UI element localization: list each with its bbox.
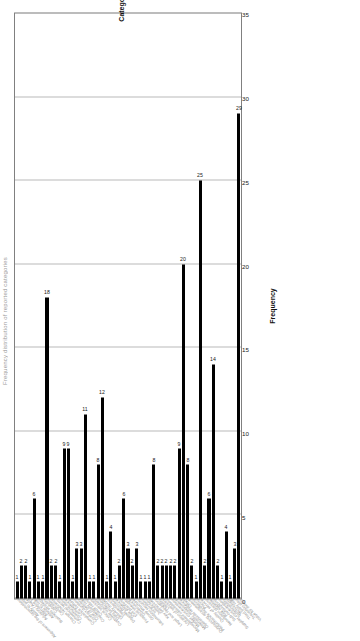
bar xyxy=(122,498,125,598)
bar-value-label: 2 xyxy=(54,559,57,564)
frequency-axis-title: Frequency xyxy=(269,12,276,599)
bar xyxy=(173,565,176,598)
frequency-axis-ticks: 05101520253035 xyxy=(242,12,260,599)
plot-area: 1221611182219913311118121412632311182222… xyxy=(14,12,242,599)
category-tick-label: Key personnel xyxy=(148,601,167,620)
bar xyxy=(16,581,19,598)
bar xyxy=(139,581,142,598)
bar-value-label: 3 xyxy=(127,542,130,547)
bar-value-label: 2 xyxy=(118,559,121,564)
category-tick-label: Technology xyxy=(225,601,240,616)
bar-value-label: 1 xyxy=(16,575,19,580)
category-tick-label: Management information xyxy=(165,601,197,633)
category-tick-label: Critical services xyxy=(89,601,109,621)
bar xyxy=(178,448,181,598)
bar xyxy=(135,548,138,598)
bar xyxy=(152,464,155,598)
bar-value-label: 2 xyxy=(50,559,53,564)
frequency-tick-label: 35 xyxy=(242,10,249,17)
bar-value-label: 14 xyxy=(210,357,216,362)
category-tick-label: Business strategy xyxy=(37,601,60,624)
bar-value-label: 8 xyxy=(186,458,189,463)
bar xyxy=(182,264,185,598)
bar xyxy=(233,548,236,598)
bar-value-label: 1 xyxy=(58,575,61,580)
category-tick-label: Outsourcing arrangement xyxy=(187,601,220,634)
bar-value-label: 20 xyxy=(181,256,187,261)
bar xyxy=(195,581,198,598)
bar xyxy=(92,581,95,598)
category-tick-label: Attitude to risk xyxy=(33,601,51,619)
bar-value-label: 1 xyxy=(229,575,232,580)
bar-value-label: 2 xyxy=(20,559,23,564)
bar xyxy=(186,464,189,598)
frequency-tick-label: 15 xyxy=(242,345,249,352)
category-tick-label: Customer outcomes xyxy=(93,601,119,627)
bar-value-label: 2 xyxy=(191,559,194,564)
bar-value-label: 2 xyxy=(169,559,172,564)
bar-value-label: 2 xyxy=(131,559,134,564)
category-tick-label: Value for money xyxy=(238,601,259,622)
gridline xyxy=(15,179,241,180)
category-tick-label: Competence xyxy=(63,601,79,617)
bar-value-label: 3 xyxy=(233,542,236,547)
bar xyxy=(97,464,100,598)
bar xyxy=(63,448,66,598)
bar-value-label: 8 xyxy=(97,458,100,463)
rotated-figure: Frequency distribution of reported categ… xyxy=(0,0,360,641)
bar-value-label: 1 xyxy=(195,575,198,580)
bar-value-label: 9 xyxy=(63,442,66,447)
category-axis-title-wrap: Category xyxy=(0,0,242,12)
category-tick-label: Disaster recovery xyxy=(110,601,133,624)
category-tick-label: Credit rating xyxy=(84,601,100,617)
category-tick-label: Sustainability xyxy=(221,601,238,618)
bar-value-label: 9 xyxy=(67,442,70,447)
bar-value-label: 25 xyxy=(198,173,204,178)
bar xyxy=(71,581,74,598)
bar xyxy=(144,581,147,598)
frequency-tick-label: 25 xyxy=(242,178,249,185)
bar-value-label: 18 xyxy=(44,290,50,295)
bar xyxy=(161,565,164,598)
category-tick-label: Legal and regulatory xyxy=(153,601,179,627)
bar xyxy=(101,397,104,598)
bar-value-label: 6 xyxy=(208,492,211,497)
frequency-tick-label: 0 xyxy=(242,597,245,604)
bar-value-label: 3 xyxy=(80,542,83,547)
category-tick-label: Due diligence xyxy=(114,601,132,619)
category-tick-label: Data protection xyxy=(97,601,117,621)
bar xyxy=(207,498,210,598)
bar-value-label: 1 xyxy=(148,575,151,580)
bar xyxy=(84,414,87,598)
category-tick-label: Commercial terms xyxy=(55,601,78,624)
plot-inner: 1221611182219913311118121412632311182222… xyxy=(15,13,241,598)
bar-value-label: 1 xyxy=(144,575,147,580)
category-tick-label: Risk appetite xyxy=(208,601,225,618)
bar xyxy=(220,581,223,598)
category-tick-label: Operational resilience xyxy=(178,601,206,629)
category-tick-label: Change readiness xyxy=(50,601,74,625)
category-tick-label: Sub-outsourcing xyxy=(212,601,233,622)
category-tick-label: Ability to pay xyxy=(20,601,36,617)
frequency-tick-label: 5 xyxy=(242,513,245,520)
category-tick-label: Governance xyxy=(127,601,143,617)
bar-value-label: 2 xyxy=(161,559,164,564)
category-tick-label: Group structure xyxy=(131,601,151,621)
bar xyxy=(37,581,40,598)
category-tick-label: Dependency xyxy=(106,601,122,617)
category-tick-label: Financial strength xyxy=(123,601,146,624)
gridline xyxy=(15,96,241,97)
bar xyxy=(109,531,112,598)
bar xyxy=(41,581,44,598)
bar xyxy=(199,180,202,598)
bar-value-label: 2 xyxy=(203,559,206,564)
category-tick-label: Location of services xyxy=(161,601,187,627)
bar xyxy=(216,565,219,598)
category-tick-label: Jurisdiction xyxy=(144,601,158,615)
bar xyxy=(105,581,108,598)
bar-value-label: 2 xyxy=(173,559,176,564)
bar xyxy=(58,581,61,598)
bar xyxy=(148,581,151,598)
category-tick-label: Third party risk xyxy=(229,601,248,620)
bar xyxy=(126,548,129,598)
